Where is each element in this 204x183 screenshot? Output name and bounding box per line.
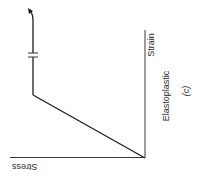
stress-axis-label: Stress xyxy=(12,162,38,172)
panel-label: (c) xyxy=(181,86,191,97)
plastic-line-upper xyxy=(30,11,33,53)
elastic-line xyxy=(33,95,145,158)
strain-axis-label: Strain xyxy=(146,33,156,57)
diagram-canvas xyxy=(0,0,204,183)
model-label: Elastoplastic xyxy=(161,71,171,122)
